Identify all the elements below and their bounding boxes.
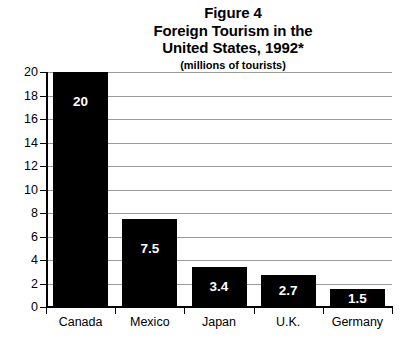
plot-area: 207.53.42.71.5: [46, 72, 392, 307]
bar-value-label: 3.4: [192, 280, 247, 294]
y-axis-tick-label: 18: [4, 90, 38, 103]
y-axis-tick-label: 4: [4, 254, 38, 267]
y-axis-tick-label: 20: [4, 66, 38, 79]
bar-mexico: 7.5: [122, 219, 177, 307]
y-axis-tick: [40, 260, 46, 261]
y-axis-tick-label: 10: [4, 184, 38, 197]
y-axis-tick-label: 6: [4, 231, 38, 244]
y-axis-tick: [40, 72, 46, 73]
category-label-canada: Canada: [46, 316, 115, 329]
x-axis-tick: [115, 307, 116, 314]
x-axis-tick: [323, 307, 324, 314]
y-axis-tick-label: 12: [4, 160, 38, 173]
chart-title-line-1: Figure 4: [60, 4, 406, 22]
bar-value-label: 1.5: [330, 292, 385, 306]
bar-germany: 1.5: [330, 289, 385, 307]
bar-canada: 20: [53, 72, 108, 307]
y-axis-tick-label: 8: [4, 207, 38, 220]
bar-japan: 3.4: [192, 267, 247, 307]
chart-title-line-2: Foreign Tourism in the: [60, 22, 406, 40]
x-axis-tick: [392, 307, 393, 314]
y-axis-tick: [40, 284, 46, 285]
chart-title-line-3: United States, 1992*: [60, 39, 406, 57]
chart-subtitle: (millions of tourists): [60, 58, 406, 72]
category-label-japan: Japan: [184, 316, 253, 329]
y-axis-tick-label: 16: [4, 113, 38, 126]
y-axis-tick: [40, 96, 46, 97]
bar-value-label: 7.5: [122, 242, 177, 256]
category-label-u-k: U.K.: [254, 316, 323, 329]
y-axis-tick: [40, 143, 46, 144]
y-axis-tick: [40, 213, 46, 214]
category-label-germany: Germany: [323, 316, 392, 329]
figure-4-chart: Figure 4 Foreign Tourism in the United S…: [0, 0, 410, 347]
bar-value-label: 20: [53, 95, 108, 109]
y-axis-tick: [40, 190, 46, 191]
y-axis-tick-label: 0: [4, 301, 38, 314]
category-label-mexico: Mexico: [115, 316, 184, 329]
y-axis-tick: [40, 119, 46, 120]
x-axis-tick: [46, 307, 47, 314]
x-axis-tick: [184, 307, 185, 314]
y-axis-labels: 20181614121086420: [0, 0, 38, 347]
y-axis-tick: [40, 166, 46, 167]
x-axis-tick: [254, 307, 255, 314]
y-axis-tick-label: 2: [4, 278, 38, 291]
y-axis-tick-label: 14: [4, 137, 38, 150]
bar-value-label: 2.7: [261, 284, 316, 298]
x-axis-line: [46, 306, 393, 308]
y-axis-tick: [40, 237, 46, 238]
y-axis-line: [46, 72, 48, 308]
bar-u-k: 2.7: [261, 275, 316, 307]
chart-title-block: Figure 4 Foreign Tourism in the United S…: [60, 4, 406, 72]
